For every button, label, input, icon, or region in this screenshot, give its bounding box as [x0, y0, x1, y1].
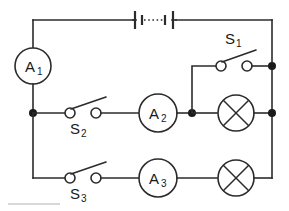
junction-right-rail-upper	[268, 62, 276, 70]
ammeter-a3-letter: A	[149, 170, 159, 187]
switch-s3-terminal-right[interactable]	[91, 173, 101, 183]
switch-s1-lever[interactable]	[222, 50, 256, 62]
ammeter-a2-subscript: 2	[161, 113, 167, 124]
ammeter-a3-subscript: 3	[161, 178, 167, 189]
switch-s2[interactable]: S 2	[65, 97, 106, 139]
wire-s1-branch	[192, 66, 216, 113]
battery-symbol	[133, 11, 176, 29]
scan-artifact-mark	[8, 203, 60, 205]
circuit-diagram-svg: A 1 S 2 A 2	[0, 0, 289, 211]
switch-s2-letter: S	[70, 120, 80, 137]
switch-s1-terminal-left[interactable]	[216, 61, 226, 71]
lamp-l1	[218, 95, 254, 131]
junction-right-rail-middle	[268, 109, 276, 117]
ammeter-a2: A 2	[139, 94, 177, 132]
switch-s2-lever[interactable]	[71, 97, 106, 109]
switch-s2-terminal-left[interactable]	[65, 108, 75, 118]
ammeter-a1: A 1	[15, 48, 51, 84]
ammeter-a3: A 3	[139, 159, 177, 197]
switch-s2-terminal-right[interactable]	[91, 108, 101, 118]
switch-s3-lever[interactable]	[71, 162, 106, 174]
switch-s3-terminal-left[interactable]	[65, 173, 75, 183]
switch-s2-subscript: 2	[81, 128, 87, 139]
ammeter-a1-subscript: 1	[37, 66, 43, 77]
switch-s3-letter: S	[70, 185, 80, 202]
switch-s3-subscript: 3	[81, 193, 87, 204]
ammeter-a1-letter: A	[25, 58, 35, 75]
switch-s1-terminal-right[interactable]	[242, 61, 252, 71]
lamp-l2	[218, 160, 254, 196]
ammeter-a2-letter: A	[149, 105, 159, 122]
switch-s1[interactable]: S 1	[216, 30, 256, 71]
switch-s1-subscript: 1	[236, 38, 242, 49]
circuit-diagram-page: A 1 S 2 A 2	[0, 0, 289, 211]
switch-s1-letter: S	[225, 30, 235, 47]
switch-s3[interactable]: S 3	[65, 162, 106, 204]
